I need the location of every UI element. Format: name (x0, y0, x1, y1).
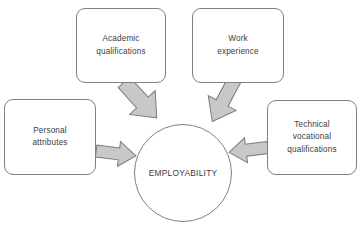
arrow-personal-to-employability (95, 139, 138, 169)
node-work-line-2: experience (217, 46, 259, 59)
node-technical-line-2: vocational (293, 131, 331, 144)
node-academic-line-2: qualifications (96, 46, 145, 59)
node-academic-qualifications[interactable]: Academic qualifications (76, 8, 166, 83)
node-academic-line-1: Academic (102, 33, 139, 46)
node-work-experience[interactable]: Work experience (192, 8, 284, 83)
hub-employability-label: EMPLOYABILITY (149, 168, 218, 178)
arrow-personal-shape (95, 139, 138, 169)
node-technical-vocational-qualifications[interactable]: Technical vocational qualifications (267, 100, 357, 175)
node-personal-attributes[interactable]: Personal attributes (4, 99, 96, 175)
node-personal-line-1: Personal (33, 125, 67, 138)
node-work-line-1: Work (228, 33, 248, 46)
arrow-technical-shape (228, 135, 270, 165)
node-personal-line-2: attributes (32, 137, 67, 150)
node-technical-line-3: qualifications (287, 144, 336, 157)
node-technical-line-1: Technical (294, 119, 329, 132)
arrow-technical-to-employability (228, 135, 270, 165)
hub-employability[interactable]: EMPLOYABILITY (134, 124, 232, 222)
employability-diagram: Academic qualifications Work experience … (0, 0, 362, 228)
